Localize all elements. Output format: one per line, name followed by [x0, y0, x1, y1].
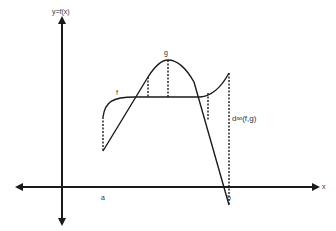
x-axis-label: x — [322, 183, 326, 190]
sup-distance-label: d∞(f,g) — [232, 114, 257, 123]
curve-g — [103, 60, 229, 205]
curve-g-label: g — [164, 49, 168, 57]
curve-f-label: f — [116, 89, 118, 96]
point-a-label: a — [101, 194, 105, 201]
sup-distance-diagram: y=f(x) x a b f g d∞(f,g) — [0, 0, 336, 231]
dashed-segments — [103, 60, 229, 205]
y-axis-label: y=f(x) — [52, 8, 70, 16]
curve-f — [103, 73, 229, 117]
point-b-label: b — [227, 194, 231, 201]
